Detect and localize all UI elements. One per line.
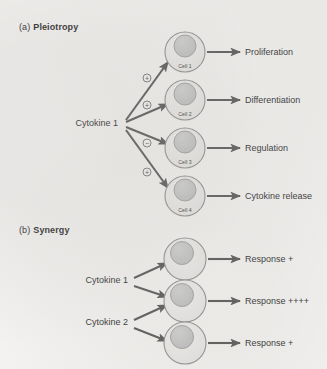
plus-badge-glyph-4: + xyxy=(145,169,149,176)
cell-synergy-1 xyxy=(164,238,206,280)
response-label-synergy-3: Response + xyxy=(245,338,293,348)
response-label-pleiotropy-3: Regulation xyxy=(245,143,288,153)
cell-label-3: Cell 3 xyxy=(178,159,191,165)
response-label-pleiotropy-1: Proliferation xyxy=(245,47,293,57)
response-label-pleiotropy-4: Cytokine release xyxy=(245,191,312,201)
panel-synergy: Cytokine 1Cytokine 2Response +Response +… xyxy=(85,238,309,364)
cell-nucleus-2 xyxy=(171,284,194,307)
plus-badge-glyph-1: + xyxy=(145,75,149,82)
cell-synergy-3 xyxy=(164,322,206,364)
plus-badge-glyph-2: + xyxy=(145,102,149,109)
signal-arrow-synergy-1 xyxy=(134,263,167,278)
source-label-pleiotropy-1: Cytokine 1 xyxy=(75,118,118,128)
figure-root: (a)Pleiotropy (b)Synergy ++−+Cell 1Cell … xyxy=(0,0,327,369)
source-label-synergy-1: Cytokine 1 xyxy=(85,275,128,285)
response-label-synergy-2: Response ++++ xyxy=(245,296,309,306)
source-label-synergy-2: Cytokine 2 xyxy=(85,317,128,327)
cell-nucleus-3 xyxy=(171,326,194,349)
cell-pleiotropy-1: Cell 1 xyxy=(165,32,205,72)
cell-label-2: Cell 2 xyxy=(178,111,191,117)
minus-badge-glyph-3: − xyxy=(145,140,149,147)
cell-pleiotropy-4: Cell 4 xyxy=(165,176,205,216)
response-label-synergy-1: Response + xyxy=(245,254,293,264)
cell-pleiotropy-3: Cell 3 xyxy=(165,128,205,168)
cell-nucleus-4 xyxy=(174,179,196,201)
cell-nucleus-2 xyxy=(174,83,196,105)
signal-arrow-synergy-3 xyxy=(134,305,167,320)
panel-pleiotropy: ++−+Cell 1Cell 2Cell 3Cell 4Cytokine 1Pr… xyxy=(75,32,312,216)
signal-arrow-synergy-4 xyxy=(134,328,167,341)
cell-label-4: Cell 4 xyxy=(178,207,191,213)
cell-nucleus-1 xyxy=(174,35,196,57)
cell-nucleus-3 xyxy=(174,131,196,153)
diagram-canvas: ++−+Cell 1Cell 2Cell 3Cell 4Cytokine 1Pr… xyxy=(0,0,327,369)
cell-label-1: Cell 1 xyxy=(178,63,191,69)
response-label-pleiotropy-2: Differentiation xyxy=(245,95,300,105)
cell-pleiotropy-2: Cell 2 xyxy=(165,80,205,120)
signal-arrow-pleiotropy-1 xyxy=(126,62,168,120)
cell-synergy-2 xyxy=(164,280,206,322)
signal-arrow-synergy-2 xyxy=(134,286,167,297)
cell-nucleus-1 xyxy=(171,242,194,265)
